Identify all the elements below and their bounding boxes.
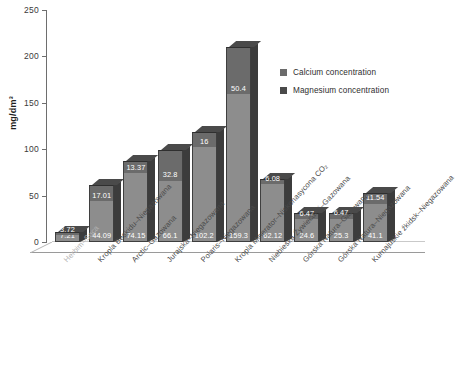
bar-value-magnesium: 50.4 [227, 85, 250, 92]
bar-segment-magnesium: 32.8 [158, 150, 183, 180]
bar-segment-magnesium: 3.72 [55, 232, 80, 235]
bar-segment-magnesium: 13.37 [123, 161, 148, 173]
bar-value-magnesium: 17.01 [90, 192, 113, 199]
legend-swatch-magnesium [280, 87, 287, 94]
bar-value-magnesium: 32.8 [159, 171, 182, 178]
bar-value-magnesium: 6.08 [261, 175, 284, 182]
bar-side-face [183, 147, 190, 242]
bar-segment-magnesium: 16 [192, 132, 217, 147]
chart-legend: Calcium concentration Magnesium concentr… [280, 68, 389, 104]
legend-item-calcium: Calcium concentration [280, 68, 389, 77]
bar-segment-magnesium: 6.08 [260, 179, 285, 185]
legend-swatch-calcium [280, 69, 287, 76]
bar-segment-magnesium: 50.4 [226, 47, 251, 94]
bar-column: 7.213.72 [55, 232, 80, 242]
legend-item-magnesium: Magnesium concentration [280, 86, 389, 95]
bar-value-magnesium: 3.72 [56, 226, 79, 233]
legend-label-calcium: Calcium concentration [293, 68, 376, 77]
bar-side-face [217, 129, 224, 242]
bar-value-magnesium: 16 [193, 138, 216, 145]
bar-value-magnesium: 13.37 [124, 164, 147, 171]
legend-label-magnesium: Magnesium concentration [293, 86, 389, 95]
bar-segment-magnesium: 17.01 [89, 185, 114, 201]
